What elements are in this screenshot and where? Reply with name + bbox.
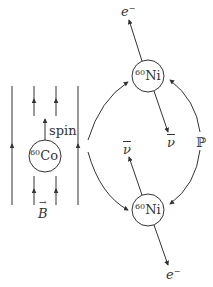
electron-top-label: e−	[121, 5, 135, 18]
antineutrino-bottom-label: ν	[123, 143, 131, 156]
parity-arrow-down	[170, 150, 200, 204]
nickel-top-symbol: Ni	[145, 68, 161, 83]
electron-symbol: e	[121, 4, 129, 19]
cobalt-mass: 60	[30, 148, 40, 157]
parity-label: ℙ	[196, 136, 206, 149]
field-symbol: B	[38, 206, 48, 221]
nickel-top-mass: 60	[135, 68, 145, 77]
decay-arrow-bottom	[88, 152, 128, 210]
nickel-bottom-symbol: Ni	[145, 202, 161, 217]
electron-charge: −	[174, 267, 181, 276]
wu-experiment-diagram: 60Co spin →B 60Ni e− ν ℙ 60Ni ν e−	[0, 0, 213, 287]
diagram-graphics	[0, 0, 213, 287]
cobalt-label: 60Co	[30, 149, 58, 162]
cobalt-symbol: Co	[40, 148, 58, 163]
nickel-bottom-mass: 60	[135, 202, 145, 211]
electron-arrow-top	[129, 20, 142, 61]
nickel-bottom-label: 60Ni	[135, 203, 161, 216]
nickel-top-label: 60Ni	[135, 69, 161, 82]
spin-label: spin	[49, 124, 77, 137]
antineutrino-arrow-top	[154, 91, 168, 132]
electron-symbol: e	[166, 267, 174, 282]
decay-arrow-top	[88, 82, 128, 140]
antineutrino-arrow-bottom	[129, 157, 142, 195]
parity-arrow-up	[170, 80, 200, 132]
field-label: →B	[38, 207, 48, 220]
antineutrino-top-label: ν	[167, 136, 175, 149]
electron-charge: −	[129, 4, 136, 13]
electron-bottom-label: e−	[166, 268, 180, 281]
electron-arrow-bottom	[154, 225, 168, 265]
